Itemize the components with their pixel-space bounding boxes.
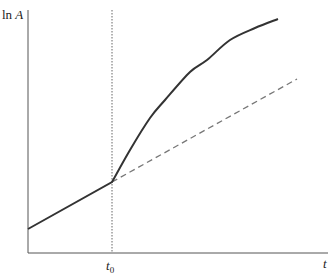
x-axis-label: t — [323, 256, 327, 271]
y-axis-label: lnA — [2, 7, 23, 22]
t0-tick-label: t0 — [106, 258, 115, 275]
chart: lnA t0 t — [0, 0, 336, 276]
trend-extrapolation-line — [112, 79, 297, 182]
ln-a-curve — [28, 19, 278, 229]
